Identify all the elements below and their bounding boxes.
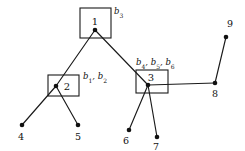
graph-canvas: 123456789 b3b1, b2b4, b5, b6 bbox=[0, 0, 245, 151]
node-dot-3[interactable] bbox=[146, 83, 151, 88]
node-label-5: 5 bbox=[75, 131, 81, 142]
node-dot-4[interactable] bbox=[20, 123, 25, 128]
node-label-1: 1 bbox=[92, 16, 98, 27]
node-label-6: 6 bbox=[123, 135, 129, 146]
branch-label-b4-b5-b6: b4, b5, b6 bbox=[136, 57, 175, 70]
edge-8-9 bbox=[215, 37, 226, 83]
node-dot-9[interactable] bbox=[224, 35, 229, 40]
branch-label-b3: b3 bbox=[114, 6, 123, 19]
node-dot-5[interactable] bbox=[76, 123, 81, 128]
node-dot-1[interactable] bbox=[93, 28, 98, 33]
node-label-7: 7 bbox=[153, 141, 159, 151]
node-dot-7[interactable] bbox=[155, 135, 160, 140]
node-label-8: 8 bbox=[212, 88, 218, 99]
edge-2-4 bbox=[22, 86, 56, 125]
node-label-4: 4 bbox=[18, 131, 24, 142]
node-dot-2[interactable] bbox=[54, 84, 59, 89]
branch-label-b1-b2: b1, b2 bbox=[83, 71, 107, 84]
node-dot-8[interactable] bbox=[213, 81, 218, 86]
node-label-2: 2 bbox=[64, 81, 70, 92]
edge-3-6 bbox=[129, 85, 148, 130]
edges-layer bbox=[22, 30, 226, 137]
graph-diagram: 123456789 b3b1, b2b4, b5, b6 bbox=[0, 0, 245, 151]
node-label-9: 9 bbox=[227, 18, 233, 29]
edge-3-8 bbox=[148, 83, 215, 85]
node-label-3: 3 bbox=[148, 72, 154, 83]
node-dot-6[interactable] bbox=[127, 128, 132, 133]
